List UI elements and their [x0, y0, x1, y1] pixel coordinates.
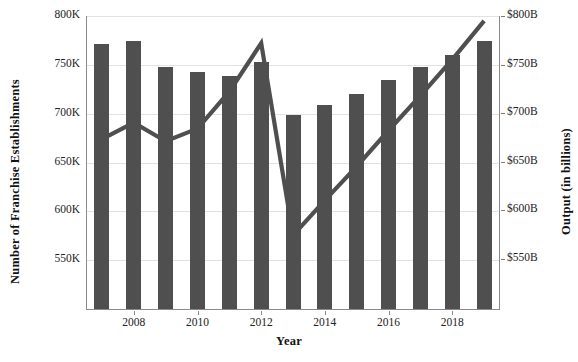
y-axis-right-tick-mark [501, 113, 505, 114]
y-axis-right-tick-mark [501, 16, 505, 17]
x-axis-tick-mark [198, 311, 199, 315]
y-axis-right-tick-mark [501, 162, 505, 163]
x-axis-tick-label: 2008 [104, 316, 164, 328]
x-axis-tick-label: 2018 [422, 316, 482, 328]
y-axis-left-tick-label: 800K [20, 8, 80, 20]
y-axis-left-tick-label: 700K [20, 106, 80, 118]
x-axis-tick-label: 2016 [359, 316, 419, 328]
x-axis-title: Year [0, 334, 578, 349]
y-axis-right-title: Output (in billions) [556, 0, 576, 362]
y-axis-right-tick-mark [501, 210, 505, 211]
x-axis-tick-mark [389, 311, 390, 315]
y-axis-right-tick-label: $550B [507, 251, 577, 263]
x-axis-tick-mark [261, 311, 262, 315]
y-axis-right-tick-mark [501, 259, 505, 260]
x-axis-tick-label: 2010 [168, 316, 228, 328]
y-axis-right-tick-label: $600B [507, 202, 577, 214]
y-axis-right-title-text: Output (in billions) [559, 128, 574, 235]
y-axis-right-tick-label: $700B [507, 105, 577, 117]
y-axis-right-tick-mark [501, 65, 505, 66]
y-axis-left-tick-label: 550K [20, 252, 80, 264]
y-axis-right-tick-label: $800B [507, 8, 577, 20]
plot-frame [86, 16, 500, 310]
plot-area [86, 16, 500, 310]
y-axis-left-tick-label: 650K [20, 155, 80, 167]
y-axis-left-tick-label: 600K [20, 203, 80, 215]
y-axis-right-tick-label: $750B [507, 57, 577, 69]
x-axis-tick-mark [325, 311, 326, 315]
x-axis-tick-mark [452, 311, 453, 315]
x-axis-tick-label: 2014 [295, 316, 355, 328]
y-axis-left-tick-label: 750K [20, 57, 80, 69]
x-axis-tick-label: 2012 [231, 316, 291, 328]
y-axis-right-tick-label: $650B [507, 154, 577, 166]
x-axis-tick-mark [134, 311, 135, 315]
y-axis-left-title: Number of Franchise Establishments [5, 0, 25, 362]
chart-container: Number of Franchise Establishments Outpu… [0, 0, 578, 362]
